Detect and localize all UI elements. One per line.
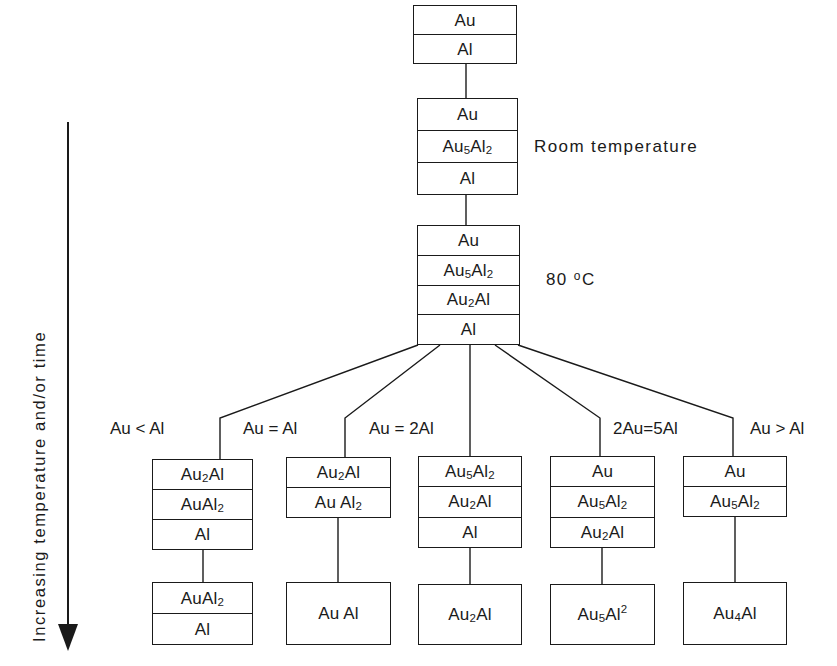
condition-label-au-eq-al: Au = Al bbox=[243, 420, 297, 437]
branch-5-upper-stack: Au Au5Al2 bbox=[683, 456, 787, 517]
layer-au: Au bbox=[418, 99, 517, 131]
layer-al: Al bbox=[418, 315, 519, 344]
layer-au2al: Au2Al bbox=[419, 487, 521, 517]
stack-1: Au Al bbox=[413, 5, 517, 64]
layer-al: Al bbox=[419, 518, 521, 547]
branch-4-upper-stack: Au Au5Al2 Au2Al bbox=[550, 456, 655, 548]
layer-al: Al bbox=[418, 163, 517, 194]
condition-label-au-gt-al: Au > Al bbox=[750, 420, 804, 437]
trend-arrow bbox=[58, 122, 78, 651]
axis-caption: Increasing temperature and/or time bbox=[30, 331, 49, 642]
layer-au5al-sup2: Au5Al2 bbox=[551, 585, 654, 644]
branch-3-lower-stack: Au2Al bbox=[418, 584, 522, 645]
branch-5-lower-stack: Au4Al bbox=[683, 582, 787, 645]
layer-au: Au bbox=[551, 457, 654, 487]
layer-au2al: Au2Al bbox=[153, 460, 252, 490]
layer-au5al2: Au5Al2 bbox=[418, 131, 517, 163]
layer-au: Au bbox=[684, 457, 786, 487]
branch-2-upper-stack: Au2Al Au Al2 bbox=[286, 457, 391, 518]
layer-au: Au bbox=[414, 6, 516, 35]
layer-au2al: Au2Al bbox=[287, 458, 390, 488]
layer-aual2: Au Al2 bbox=[287, 488, 390, 517]
layer-au5al2: Au5Al2 bbox=[551, 487, 654, 517]
branch-line-5 bbox=[518, 345, 733, 456]
layer-au5al2: Au5Al2 bbox=[418, 256, 519, 286]
branch-line-4 bbox=[495, 345, 600, 456]
branch-1-upper-stack: Au2Al AuAl2 Al bbox=[152, 459, 253, 550]
layer-au5al2: Au5Al2 bbox=[419, 457, 521, 487]
layer-au2al: Au2Al bbox=[418, 286, 519, 316]
layer-aual2: AuAl2 bbox=[153, 490, 252, 520]
layer-aual: Au Al bbox=[287, 583, 390, 644]
layer-au2al: Au2Al bbox=[419, 585, 521, 644]
room-temperature-label: Room temperature bbox=[534, 138, 698, 155]
branch-3-upper-stack: Au5Al2 Au2Al Al bbox=[418, 456, 522, 548]
branch-1-lower-stack: AuAl2 Al bbox=[152, 582, 253, 645]
temperature-value: 80 bbox=[546, 270, 574, 289]
condition-label-au-eq-2al: Au = 2Al bbox=[369, 420, 434, 437]
layer-al: Al bbox=[153, 614, 252, 644]
temperature-unit: C bbox=[582, 270, 596, 289]
layer-au5al2: Au5Al2 bbox=[684, 487, 786, 516]
arrow-head-icon bbox=[58, 624, 78, 651]
layer-aual2: AuAl2 bbox=[153, 583, 252, 614]
layer-au: Au bbox=[418, 226, 519, 256]
diagram-canvas: Increasing temperature and/or time Au Al… bbox=[0, 0, 837, 666]
branch-2-lower-stack: Au Al bbox=[286, 582, 391, 645]
condition-label-au-lt-al: Au < Al bbox=[110, 420, 164, 437]
stack-2: Au Au5Al2 Al bbox=[417, 98, 518, 195]
degree-icon: o bbox=[574, 269, 582, 283]
branch-line-2 bbox=[345, 345, 440, 457]
layer-al: Al bbox=[153, 520, 252, 549]
layer-au2al: Au2Al bbox=[551, 518, 654, 547]
branch-line-1 bbox=[220, 345, 418, 459]
stack-3: Au Au5Al2 Au2Al Al bbox=[417, 225, 520, 345]
layer-au4al: Au4Al bbox=[684, 583, 786, 644]
layer-al: Al bbox=[414, 35, 516, 63]
temperature-80c-label: 80 oC bbox=[546, 271, 596, 288]
condition-label-2au-eq-5al: 2Au=5Al bbox=[613, 420, 678, 437]
branch-4-lower-stack: Au5Al2 bbox=[550, 584, 655, 645]
